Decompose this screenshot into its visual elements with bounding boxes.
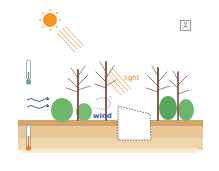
light-rays-icon [57, 26, 84, 52]
air-thermometer-icon [26, 60, 31, 85]
soil-thermometer-icon [26, 125, 31, 151]
soil [18, 120, 203, 153]
sun-icon [39, 9, 61, 31]
wind-swirl [96, 96, 112, 109]
wind-label: wind [93, 113, 112, 120]
forest-gap-outline [118, 106, 151, 140]
light-label: light [124, 75, 140, 82]
wind-arrows-icon [27, 97, 49, 109]
person-badge-icon [180, 20, 191, 31]
